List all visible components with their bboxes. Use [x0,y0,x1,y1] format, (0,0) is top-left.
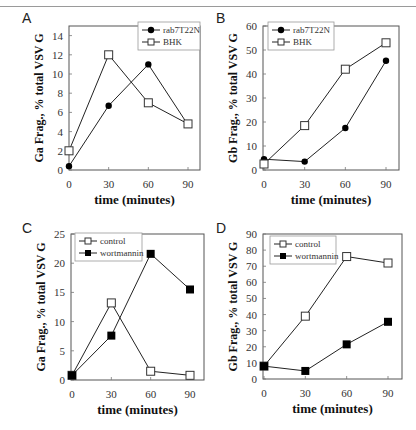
panel-c-control-marker-open-square [147,367,155,375]
panel-a-series-line-bhk [69,55,188,151]
panel-a-rab7t22n-marker-filled-circle [66,163,72,169]
panel-b-rab7t22n-marker-filled-circle [342,125,348,131]
panel-a-bhk-marker-open-square [184,120,192,128]
panel-c-ytick-label: 15 [54,286,66,298]
panel-a-y-axis-title: Ga Frag., % total VSV G [32,33,46,162]
panel-d-y-axis-title: Gb Frag., % total VSV G [226,242,240,372]
panel-b-legend-label: BHK [293,37,313,47]
panel-a-ytick-label: 14 [52,30,64,42]
panel-a-rab7t22n-marker-filled-circle [145,61,151,67]
panel-b-ytick-label: 10 [246,140,258,152]
panel-c-ytick-label: 20 [54,257,66,269]
panel-b-ytick-label: 0 [252,164,258,176]
panel-d-wortmannin-marker-filled-square [343,340,351,348]
panel-d-wortmannin-marker-filled-square [301,367,309,375]
panel-b-xtick-label: 90 [381,178,393,190]
panel-d-legend-marker-filled-square [280,253,286,259]
panel-d-control-marker-open-square [343,253,351,261]
panel-b-bhk-marker-open-square [301,122,309,130]
panel-c-series-line-wortmannin [72,254,190,375]
panel-c-legend-marker-open-square [85,238,91,244]
panel-c-legend-marker-filled-square [85,250,91,256]
panel-a-ytick-label: 12 [52,49,63,61]
panel-b-bhk-marker-open-square [382,39,390,47]
panel-d-series-line-wortmannin [264,322,388,371]
panel-b-rab7t22n-marker-filled-circle [301,158,307,164]
panel-c-ytick-label: 10 [54,316,66,328]
panel-d-ytick-label: 80 [246,244,258,256]
panel-c-wortmannin-marker-filled-square [107,332,115,340]
panel-b-xtick-label: 0 [261,178,267,190]
panel-a-bhk-marker-open-square [144,99,152,107]
panel-b-ytick-label: 60 [246,20,258,32]
panel-c-series-line-control [72,303,190,375]
panel-d-legend-label: wortmannin [295,251,339,261]
panel-b-ytick-label: 20 [246,116,258,128]
panel-d-xtick-label: 0 [261,387,267,399]
panel-a-ytick-label: 2 [58,145,64,157]
panel-c-legend-label: control [100,236,126,246]
panel-d-ytick-label: 30 [246,325,258,337]
panel-b-bhk-marker-open-square [260,160,268,168]
panel-d-ytick-label: 50 [246,292,258,304]
panel-c-wortmannin-marker-filled-square [68,371,76,379]
panel-a-series-line-rab7t22n [69,64,188,166]
panel-a-ytick-label: 8 [58,87,64,99]
panel-c-xtick-label: 60 [145,388,157,400]
panel-b-ytick-label: 50 [246,44,258,56]
panel-c-xtick-label: 0 [69,388,75,400]
panel-c-legend-label: wortmannin [100,248,144,258]
panel-a-legend-marker-open-square [148,39,154,45]
panel-c-ytick-label: 25 [54,228,66,240]
panel-b-ytick-label: 30 [246,92,258,104]
panel-b-series-line-bhk [264,43,386,164]
panel-b-legend-marker-filled-circle [278,27,284,33]
panel-d-control-marker-open-square [301,312,309,320]
panel-a-legend-label: rab7T22N [163,25,200,35]
panel-c-xtick-label: 30 [106,388,118,400]
panel-d-xtick-label: 60 [341,387,353,399]
panel-b-rab7t22n-marker-filled-circle [383,58,389,64]
panel-d-wortmannin-marker-filled-square [384,318,392,326]
panel-a-xtick-label: 0 [66,178,72,190]
panel-a-ytick-label: 0 [58,164,64,176]
panel-d-ytick-label: 0 [252,373,258,385]
panel-a-bhk-marker-open-square [105,51,113,59]
panel-a-ytick-label: 10 [52,68,64,80]
panel-a-ytick-label: 4 [58,126,64,138]
panel-a-x-axis-title: time (minutes) [94,192,175,207]
panel-c-xtick-label: 90 [185,388,197,400]
figure-charts: 024681012140306090time (minutes)Ga Frag.… [0,0,416,430]
panel-d-xtick-label: 90 [383,387,395,399]
panel-a-ytick-label: 6 [58,106,64,118]
panel-d-ytick-label: 40 [246,309,258,321]
panel-b-legend-label: rab7T22N [293,25,330,35]
panel-d-legend-marker-open-square [280,241,286,247]
panel-c-control-marker-open-square [107,299,115,307]
panel-d-legend-label: control [295,239,321,249]
panel-b-legend-marker-open-square [278,39,284,45]
panel-b-xtick-label: 60 [340,178,352,190]
panel-a-xtick-label: 30 [103,178,115,190]
panel-b-bhk-marker-open-square [341,65,349,73]
panel-d-wortmannin-marker-filled-square [260,362,268,370]
panel-b-xtick-label: 30 [299,178,311,190]
panel-b-x-axis-title: time (minutes) [291,192,372,207]
panel-a-legend-marker-filled-circle [148,27,154,33]
panel-d-series-line-control [264,257,388,367]
panel-d-control-marker-open-square [384,259,392,267]
panel-d-xtick-label: 30 [300,387,312,399]
panel-c-wortmannin-marker-filled-square [147,250,155,258]
panel-c-y-axis-title: Ga Frag., % total VSV G [34,242,48,371]
panel-b-y-axis-title: Gb Frag., % total VSV G [226,33,240,163]
panel-c-control-marker-open-square [186,371,194,379]
panel-a-bhk-marker-open-square [65,147,73,155]
panel-a-xtick-label: 60 [143,178,155,190]
panel-c-ytick-label: 0 [60,374,66,386]
panel-d-x-axis-title: time (minutes) [292,401,373,416]
panel-d-ytick-label: 70 [246,260,258,272]
panel-a-rab7t22n-marker-filled-circle [105,102,111,108]
panel-a-legend-label: BHK [163,37,183,47]
panel-c-x-axis-title: time (minutes) [97,402,178,417]
panel-d-ytick-label: 90 [246,228,258,240]
